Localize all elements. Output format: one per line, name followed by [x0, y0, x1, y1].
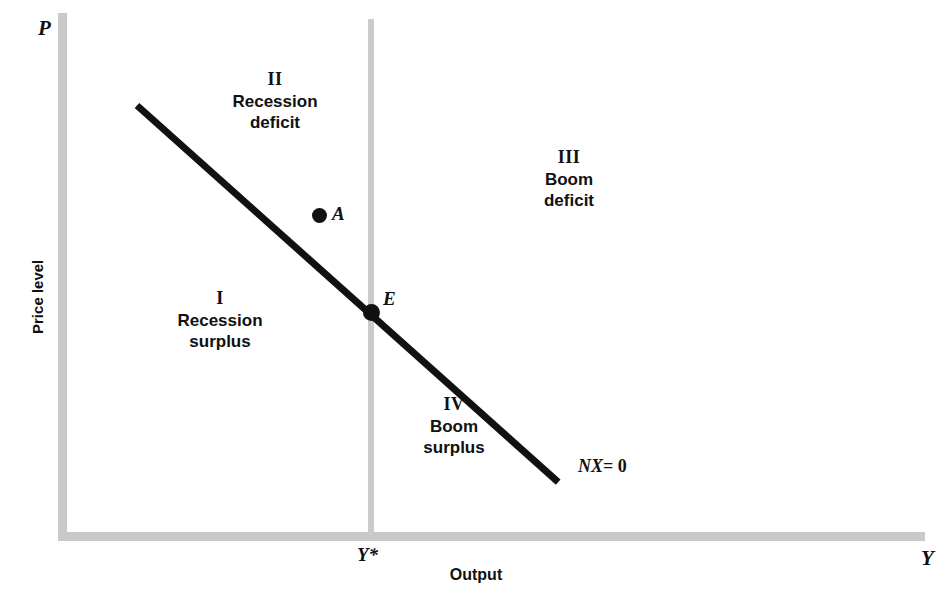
- quadrant-three-roman: III: [490, 146, 648, 169]
- quadrant-four-roman: IV: [392, 393, 516, 416]
- quadrant-two-roman: II: [196, 68, 354, 91]
- quadrant-label-two: II Recession deficit: [196, 68, 354, 134]
- x-axis-symbol-y: Y: [921, 546, 934, 571]
- nx-symbol: NX: [578, 456, 603, 476]
- point-e-marker: [363, 304, 380, 321]
- point-e-label: E: [383, 288, 396, 310]
- point-a-label: A: [332, 203, 345, 225]
- quadrant-one-roman: I: [158, 287, 282, 310]
- x-tick-label-ystar: Y*: [357, 544, 378, 566]
- economics-quadrant-diagram: A E NX= 0 P Y Price level Output Y* I Re…: [0, 0, 951, 603]
- y-axis-symbol-p: P: [38, 16, 51, 41]
- quadrant-label-four: IV Boom surplus: [392, 393, 516, 459]
- point-a-marker: [312, 208, 327, 223]
- quadrant-label-three: III Boom deficit: [490, 146, 648, 212]
- quadrant-two-line1: Recession: [196, 91, 354, 113]
- x-axis-line: [58, 532, 925, 541]
- quadrant-two-line2: deficit: [196, 112, 354, 134]
- nx-zero-label: NX= 0: [578, 456, 627, 477]
- x-axis-title: Output: [416, 566, 536, 585]
- quadrant-four-line2: surplus: [392, 437, 516, 459]
- y-axis-title: Price level: [29, 237, 47, 357]
- quadrant-one-line2: surplus: [158, 331, 282, 353]
- ystar-vertical-line: [368, 19, 374, 535]
- quadrant-three-line2: deficit: [490, 190, 648, 212]
- quadrant-three-line1: Boom: [490, 169, 648, 191]
- y-axis-line: [58, 13, 67, 541]
- nx-equals-zero: = 0: [603, 456, 627, 476]
- quadrant-four-line1: Boom: [392, 416, 516, 438]
- quadrant-one-line1: Recession: [158, 310, 282, 332]
- quadrant-label-one: I Recession surplus: [158, 287, 282, 353]
